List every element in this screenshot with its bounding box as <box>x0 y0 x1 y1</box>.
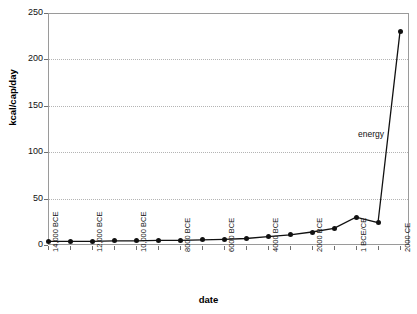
data-point <box>244 236 249 241</box>
data-point <box>178 238 183 243</box>
y-tick-label: 0 <box>17 240 43 249</box>
x-tick-label: 4000 BCE <box>272 218 280 252</box>
data-point <box>266 234 271 239</box>
data-point <box>200 237 205 242</box>
y-tick-mark <box>44 152 48 153</box>
y-tick-label: 250 <box>17 8 43 17</box>
x-tick-mark <box>114 246 115 250</box>
y-tick-mark <box>44 13 48 14</box>
x-tick-mark <box>378 246 379 250</box>
y-tick-mark <box>44 59 48 60</box>
y-tick-label: 100 <box>17 147 43 156</box>
data-point <box>90 239 95 244</box>
x-tick-mark <box>268 246 269 250</box>
x-tick-mark <box>70 246 71 250</box>
x-tick-mark <box>400 246 401 250</box>
gridline <box>49 106 408 107</box>
x-tick-mark <box>224 246 225 250</box>
x-tick-mark <box>180 246 181 250</box>
data-point <box>310 230 315 235</box>
x-tick-mark <box>92 246 93 250</box>
y-axis-title: kcal/cap/day <box>7 53 18 143</box>
gridline <box>49 59 408 60</box>
data-point <box>376 220 381 225</box>
x-tick-mark <box>290 246 291 250</box>
x-tick-label: 12,000 BCE <box>96 212 104 252</box>
data-point <box>398 29 403 34</box>
series-label-energy: energy <box>358 129 384 139</box>
x-tick-mark <box>312 246 313 250</box>
x-tick-mark <box>48 246 49 250</box>
data-point <box>222 237 227 242</box>
x-axis-title: date <box>0 294 417 305</box>
data-point <box>68 239 73 244</box>
data-point <box>288 232 293 237</box>
y-tick-mark <box>44 199 48 200</box>
data-point <box>156 238 161 243</box>
y-tick-label: 150 <box>17 101 43 110</box>
x-tick-label: 10,000 BCE <box>140 212 148 252</box>
x-tick-label: 2000 BCE <box>316 218 324 252</box>
data-point <box>332 226 337 231</box>
y-tick-label: 50 <box>17 194 43 203</box>
x-tick-label: 2000 CE <box>404 223 412 252</box>
x-tick-label: 8000 BCE <box>184 218 192 252</box>
x-tick-mark <box>334 246 335 250</box>
x-tick-mark <box>246 246 247 250</box>
x-tick-label: 6000 BCE <box>228 218 236 252</box>
data-point <box>112 238 117 243</box>
plot-area <box>48 13 409 245</box>
x-tick-mark <box>136 246 137 250</box>
y-tick-label: 200 <box>17 54 43 63</box>
x-tick-label: 1 BCE/CE <box>360 218 368 252</box>
x-tick-mark <box>202 246 203 250</box>
x-tick-label: 14,000 BCE <box>52 212 60 252</box>
gridline <box>49 152 408 153</box>
energy-per-capita-chart: 050100150200250 kcal/cap/day 14,000 BCE1… <box>0 0 417 314</box>
data-point <box>354 215 359 220</box>
data-point <box>134 238 139 243</box>
data-point <box>46 239 51 244</box>
x-tick-mark <box>158 246 159 250</box>
y-tick-mark <box>44 106 48 107</box>
gridline <box>49 199 408 200</box>
x-tick-mark <box>356 246 357 250</box>
